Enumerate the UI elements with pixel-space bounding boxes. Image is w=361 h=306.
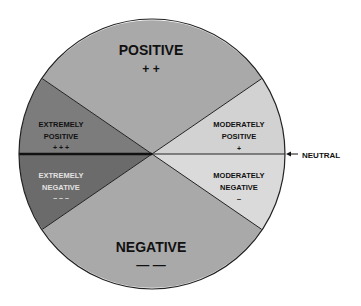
arrow-head-icon [286, 152, 291, 157]
negative-symbol: — — [136, 257, 166, 272]
extremely-negative-line1: EXTREMELY [38, 171, 83, 180]
neutral-pointer: NEUTRAL [286, 151, 340, 160]
extremely-negative-line2: NEGATIVE [42, 183, 80, 192]
moderately-positive-line1: MODERATELY [213, 120, 264, 129]
scale-wheel: POSITIVE + + EXTREMELY POSITIVE + + + EX… [0, 0, 361, 306]
positive-symbol: + + [142, 62, 159, 76]
moderately-positive-line2: POSITIVE [222, 132, 257, 141]
extremely-positive-line2: POSITIVE [44, 132, 79, 141]
moderately-negative-line1: MODERATELY [213, 171, 264, 180]
positive-label: POSITIVE [119, 42, 184, 58]
extremely-positive-line1: EXTREMELY [38, 120, 83, 129]
extremely-negative-symbol: – – – [53, 194, 69, 201]
negative-label: NEGATIVE [116, 239, 187, 255]
moderately-negative-symbol: – [237, 194, 242, 203]
moderately-negative-line2: NEGATIVE [220, 183, 258, 192]
attitude-scale-diagram: POSITIVE + + EXTREMELY POSITIVE + + + EX… [0, 0, 361, 306]
extremely-positive-symbol: + + + [53, 144, 69, 151]
moderately-positive-symbol: + [237, 145, 241, 152]
neutral-label: NEUTRAL [302, 151, 340, 160]
